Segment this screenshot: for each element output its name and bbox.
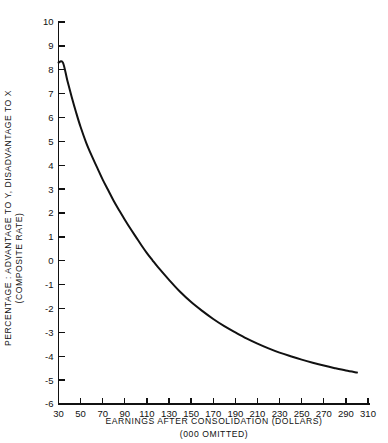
y-axis-tick-label: 3 [48, 184, 53, 195]
y-axis-title-line1: PERCENTAGE : ADVANTAGE TO Y, DISADVANTAG… [3, 90, 13, 346]
line-chart: 109876543210-1-2-3-4-5-6 305070901101301… [0, 0, 388, 443]
y-axis-tick-label: -4 [45, 351, 53, 362]
y-axis-tick-label: 4 [48, 160, 53, 171]
y-axis-title-line2: (COMPOSITE RATE) [14, 213, 24, 304]
y-axis-tick-labels: 109876543210-1-2-3-4-5-6 [43, 16, 54, 409]
chart-figure: 109876543210-1-2-3-4-5-6 305070901101301… [0, 0, 388, 443]
x-axis-tick-label: 30 [53, 408, 64, 419]
y-axis-tick-label: -3 [45, 327, 53, 338]
y-axis-tick-label: 8 [48, 64, 53, 75]
y-axis-tick-label: 1 [48, 231, 53, 242]
y-axis-tick-label: 9 [48, 40, 53, 51]
y-axis-tick-label: 5 [48, 136, 53, 147]
y-axis-tick-label: 6 [48, 112, 53, 123]
x-axis-tick-label: 50 [75, 408, 86, 419]
y-axis-tick-label: -1 [45, 279, 53, 290]
y-axis-tick-label: 0 [48, 255, 53, 266]
y-axis-tick-label: -2 [45, 303, 53, 314]
data-series-curve [59, 61, 357, 372]
y-axis-tick-label: 2 [48, 207, 53, 218]
x-axis-tick-label: 290 [338, 408, 354, 419]
x-axis-title-line1: EARNINGS AFTER CONSOLIDATION (DOLLARS) [106, 416, 323, 426]
y-axis-tick-label: 10 [43, 16, 54, 27]
y-axis-tick-label: 7 [48, 88, 53, 99]
y-axis-tick-label: -5 [45, 375, 53, 386]
x-axis-tick-label: 310 [360, 408, 376, 419]
x-axis-title-line2: (000 OMITTED) [180, 429, 248, 439]
